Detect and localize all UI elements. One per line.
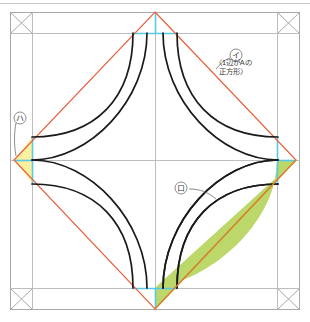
geometry-figure: イ ハ ロ — [0, 0, 310, 322]
diagram-canvas: イ ハ ロ 〈1辺がAの 正方形〉 — [0, 0, 310, 322]
leader-lines-group — [15, 58, 231, 199]
label-ha-mark: ハ — [16, 114, 24, 123]
arc-outer-top-right — [163, 33, 278, 160]
grid-lines-group — [11, 13, 300, 310]
label-i-line2: 正方形〉 — [215, 68, 251, 77]
arc-inner-bottom-left — [32, 184, 133, 288]
arc-inner-top-right — [177, 33, 278, 137]
arc-inner-top-left — [32, 33, 133, 137]
label-i-annotation: 〈1辺がAの 正方形〉 — [215, 59, 251, 76]
leader-line-ha — [15, 123, 17, 156]
label-ro-mark: ロ — [177, 184, 185, 193]
arc-outer-bottom-left — [32, 160, 147, 288]
arc-outer-top-left — [32, 33, 147, 160]
diamond-edge-lower-right-overlay — [155, 160, 296, 309]
